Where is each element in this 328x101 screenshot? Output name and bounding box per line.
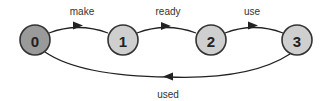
node-label: 0 (31, 33, 39, 50)
arrow-icon (161, 22, 171, 30)
node-label: 2 (207, 33, 215, 50)
edge-line (137, 28, 196, 34)
state-diagram: make ready use used 0 1 2 3 (0, 0, 328, 101)
edge-line (45, 52, 290, 77)
state-node-2: 2 (196, 25, 226, 55)
edge-ready: ready (137, 6, 196, 33)
edge-label-make: make (70, 6, 95, 17)
state-node-3: 3 (282, 25, 312, 55)
edge-label-used: used (157, 89, 179, 100)
node-label: 1 (119, 33, 127, 50)
edge-line (225, 28, 283, 34)
edge-use: use (225, 6, 283, 33)
arrow-icon (248, 22, 258, 30)
state-node-1: 1 (108, 25, 138, 55)
state-node-0: 0 (20, 25, 50, 55)
arrow-icon (73, 22, 83, 30)
edge-label-use: use (244, 6, 261, 17)
edge-line (49, 28, 108, 34)
edge-make: make (49, 6, 108, 33)
edge-used: used (45, 52, 290, 100)
edge-label-ready: ready (155, 6, 180, 17)
arrow-icon (163, 73, 173, 81)
node-label: 3 (293, 33, 301, 50)
